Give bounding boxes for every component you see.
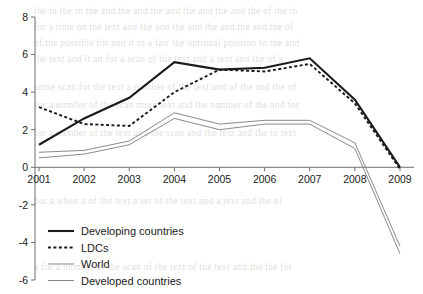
x-axis-ticks: 200120022003200420052006200720082009 (27, 167, 412, 185)
y-tick-label: 0 (22, 161, 28, 173)
x-tick-label: 2003 (118, 173, 142, 185)
y-axis-ticks: 86420-2-4-6 (19, 11, 35, 286)
y-tick-label: 8 (22, 11, 28, 23)
legend-label: World (81, 258, 110, 270)
chart-container: the in the in the and the and the and th… (0, 0, 423, 294)
x-tick-label: 2002 (72, 173, 96, 185)
x-tick-label: 2005 (208, 173, 232, 185)
y-tick-label: -6 (19, 274, 28, 286)
line-chart: 86420-2-4-6 2001200220032004200520062007… (0, 0, 423, 294)
y-tick-label: 4 (22, 86, 28, 98)
y-tick-label: -2 (19, 199, 28, 211)
legend-label: LDCs (81, 242, 109, 254)
chart-legend: Developing countriesLDCsWorldDeveloped c… (48, 225, 184, 287)
x-tick-label: 2008 (343, 173, 367, 185)
x-tick-label: 2006 (253, 173, 277, 185)
series-line-developing-countries (39, 58, 400, 167)
x-tick-label: 2004 (163, 173, 187, 185)
legend-label: Developed countries (81, 275, 182, 287)
x-tick-label: 2009 (388, 173, 412, 185)
y-tick-label: -4 (19, 236, 28, 248)
x-tick-label: 2007 (298, 173, 322, 185)
x-tick-label: 2001 (27, 173, 51, 185)
x-axis: 200120022003200420052006200720082009 (27, 167, 414, 185)
series-line-ldcs (39, 64, 400, 169)
y-tick-label: 2 (22, 124, 28, 136)
y-axis: 86420-2-4-6 (19, 11, 35, 286)
legend-label: Developing countries (81, 225, 184, 237)
y-tick-label: 6 (22, 48, 28, 60)
